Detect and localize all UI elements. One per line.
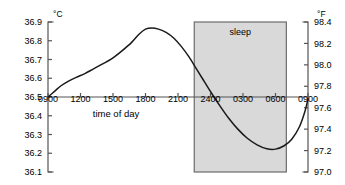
right-tick-label: 97.6 bbox=[314, 103, 332, 113]
chart-canvas: 36.936.836.736.636.536.436.336.236.1 98.… bbox=[0, 0, 345, 185]
right-tick-label: 97.2 bbox=[314, 146, 332, 156]
x-tick-label: 0900 bbox=[298, 94, 318, 104]
x-tick-label: 2400 bbox=[200, 94, 220, 104]
left-tick-label: 36.7 bbox=[24, 55, 42, 65]
left-tick-label: 36.9 bbox=[24, 17, 42, 27]
x-tick-label: 1500 bbox=[103, 94, 123, 104]
x-tick-label: 2100 bbox=[168, 94, 188, 104]
left-tick-label: 36.2 bbox=[24, 148, 42, 158]
right-tick-label: 97.0 bbox=[314, 167, 332, 177]
left-tick-label: 36.8 bbox=[24, 36, 42, 46]
x-tick-label: 0900 bbox=[38, 94, 58, 104]
x-tick-label: 0600 bbox=[265, 94, 285, 104]
x-tick-label: 0300 bbox=[233, 94, 253, 104]
right-tick-label: 97.8 bbox=[314, 81, 332, 91]
x-axis-tick-labels: 090012001500180021002400030006000900 bbox=[38, 94, 318, 104]
sleep-region-label: sleep bbox=[230, 27, 252, 37]
x-tick-label: 1200 bbox=[70, 94, 90, 104]
right-axis-unit-label: °F bbox=[317, 9, 326, 19]
left-axis-unit-label: °C bbox=[53, 9, 63, 19]
x-tick-label: 1800 bbox=[135, 94, 155, 104]
right-tick-label: 98.0 bbox=[314, 60, 332, 70]
left-tick-label: 36.1 bbox=[24, 167, 42, 177]
x-axis-title: time of day bbox=[93, 108, 140, 119]
right-tick-label: 97.4 bbox=[314, 124, 332, 134]
left-tick-label: 36.3 bbox=[24, 130, 42, 140]
temperature-circadian-chart: 36.936.836.736.636.536.436.336.236.1 98.… bbox=[0, 0, 345, 185]
right-tick-label: 98.2 bbox=[314, 39, 332, 49]
left-tick-label: 36.6 bbox=[24, 73, 42, 83]
left-tick-label: 36.4 bbox=[24, 111, 42, 121]
